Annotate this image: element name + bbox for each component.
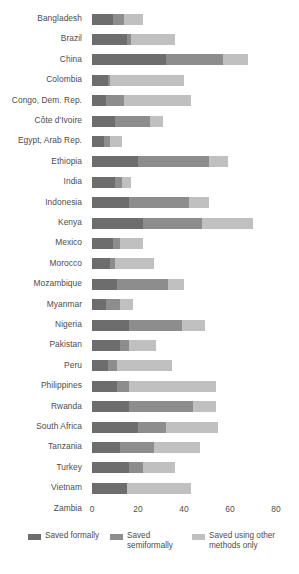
stacked-bar (92, 299, 133, 310)
stacked-bar (92, 54, 248, 65)
x-tick-label: 20 (133, 504, 142, 514)
stacked-bar (92, 320, 205, 331)
legend-swatch-other-icon (192, 534, 205, 540)
bar-segment-formal (92, 54, 166, 65)
chart-row: Côte d'Ivoire (0, 114, 299, 134)
bar-segment-other (127, 483, 191, 494)
stacked-bar (92, 218, 253, 229)
bar-segment-formal (92, 299, 106, 310)
bar-segment-semi (129, 401, 193, 412)
bar-segment-other (124, 14, 142, 25)
chart-row: Indonesia (0, 196, 299, 216)
stacked-bar (92, 197, 209, 208)
category-label: Peru (0, 359, 82, 372)
bar-segment-semi (138, 156, 209, 167)
chart-row: Bangladesh (0, 12, 299, 32)
legend-item[interactable]: Saved formally (28, 531, 99, 541)
chart-row: Vietnam (0, 481, 299, 501)
category-label: Ethiopia (0, 155, 82, 168)
chart-row: Myanmar (0, 298, 299, 318)
clipped-title-top (0, 0, 299, 11)
category-label: Tanzania (0, 440, 82, 453)
stacked-bar (92, 238, 143, 249)
bar-segment-other (223, 54, 248, 65)
stacked-bar (92, 401, 216, 412)
chart-row: China (0, 53, 299, 73)
x-axis: 020406080 (0, 504, 299, 524)
legend-item[interactable]: Saved using other methods only (192, 531, 275, 551)
bar-segment-other (129, 381, 216, 392)
chart-row: Philippines (0, 379, 299, 399)
bar-segment-semi (106, 299, 120, 310)
legend-label: Saved semiformally (127, 531, 193, 551)
legend-label: Saved formally (45, 531, 99, 541)
chart-row: Peru (0, 359, 299, 379)
category-label: Mexico (0, 236, 82, 249)
bar-segment-formal (92, 401, 129, 412)
category-label: Nigeria (0, 318, 82, 331)
bar-segment-other (122, 177, 131, 188)
category-label: South Africa (0, 420, 82, 433)
bar-segment-formal (92, 442, 120, 453)
bar-segment-semi (129, 462, 143, 473)
bar-segment-formal (92, 75, 108, 86)
bar-segment-formal (92, 462, 129, 473)
category-label: Rwanda (0, 400, 82, 413)
chart-legend: Saved formallySaved semiformallySaved us… (0, 531, 299, 557)
category-label: China (0, 53, 82, 66)
stacked-bar (92, 75, 184, 86)
chart-row: Pakistan (0, 338, 299, 358)
chart-row: Nigeria (0, 318, 299, 338)
stacked-bar-chart: BangladeshBrazilChinaColombiaCongo, Dem.… (0, 0, 299, 574)
bar-segment-formal (92, 258, 110, 269)
category-label: Turkey (0, 461, 82, 474)
chart-row: Rwanda (0, 400, 299, 420)
bar-segment-semi (166, 54, 224, 65)
clipped-text-bottom (0, 562, 299, 574)
bar-segment-formal (92, 95, 106, 106)
stacked-bar (92, 95, 191, 106)
x-tick-label: 40 (179, 504, 188, 514)
bar-segment-semi (113, 14, 125, 25)
stacked-bar (92, 156, 228, 167)
category-label: Egypt, Arab Rep. (0, 134, 82, 147)
legend-item[interactable]: Saved semiformally (110, 531, 193, 551)
bar-segment-semi (106, 95, 124, 106)
chart-row: Colombia (0, 73, 299, 93)
bar-segment-semi (115, 177, 122, 188)
bar-segment-other (120, 299, 134, 310)
x-tick-label: 80 (271, 504, 280, 514)
bar-segment-formal (92, 483, 127, 494)
category-label: Bangladesh (0, 12, 82, 25)
bar-segment-other (150, 116, 164, 127)
plot-area: BangladeshBrazilChinaColombiaCongo, Dem.… (0, 12, 299, 504)
bar-segment-formal (92, 320, 129, 331)
bar-segment-formal (92, 34, 127, 45)
category-label: Colombia (0, 73, 82, 86)
category-label: Indonesia (0, 196, 82, 209)
stacked-bar (92, 258, 154, 269)
stacked-bar (92, 462, 175, 473)
bar-segment-other (110, 75, 184, 86)
stacked-bar (92, 360, 173, 371)
category-label: Vietnam (0, 481, 82, 494)
bar-segment-semi (138, 422, 166, 433)
stacked-bar (92, 34, 175, 45)
bar-segment-other (189, 197, 210, 208)
bar-segment-other (209, 156, 227, 167)
category-label: Brazil (0, 32, 82, 45)
bar-segment-other (154, 442, 200, 453)
chart-row: Turkey (0, 461, 299, 481)
bar-segment-formal (92, 422, 138, 433)
legend-swatch-semi-icon (110, 534, 123, 540)
chart-row: South Africa (0, 420, 299, 440)
bar-segment-other (202, 218, 253, 229)
bar-segment-other (193, 401, 216, 412)
category-label: Congo, Dem. Rep. (0, 94, 82, 107)
category-label: Myanmar (0, 298, 82, 311)
chart-row: India (0, 175, 299, 195)
bar-segment-other (124, 95, 191, 106)
stacked-bar (92, 279, 184, 290)
bar-segment-semi (115, 116, 150, 127)
stacked-bar (92, 442, 200, 453)
